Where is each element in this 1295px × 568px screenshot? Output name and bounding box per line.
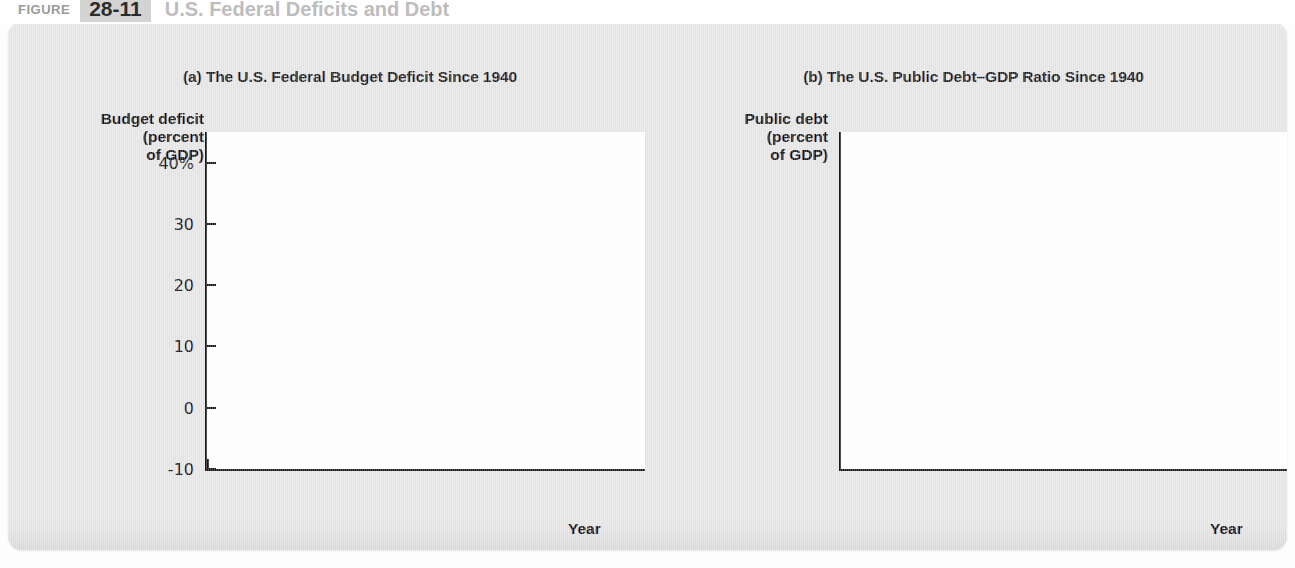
y-tick-label: -10 bbox=[168, 460, 207, 479]
chart-panel-a: (a) The U.S. Federal Budget Deficit Sinc… bbox=[8, 22, 648, 550]
panel-a-subtitle: (a) The U.S. Federal Budget Deficit Sinc… bbox=[8, 68, 670, 86]
y-tick-mark bbox=[207, 223, 216, 225]
chart-panel-b: (b) The U.S. Public Debt–GDP Ratio Since… bbox=[644, 22, 1287, 550]
y-tick-label: 40% bbox=[158, 153, 207, 172]
panel-a-plot-area: 40%3020100-10 bbox=[205, 132, 645, 471]
figure-label: Figure bbox=[0, 2, 80, 17]
figure-panel: (a) The U.S. Federal Budget Deficit Sinc… bbox=[8, 22, 1287, 550]
y-tick-mark bbox=[207, 345, 216, 347]
figure-number: 28-11 bbox=[80, 0, 151, 22]
y-tick-mark bbox=[207, 162, 216, 164]
y-tick-label: 30 bbox=[174, 214, 207, 233]
figure-root: Figure 28-11 U.S. Federal Deficits and D… bbox=[0, 0, 1295, 568]
x-tick-mark bbox=[207, 459, 209, 469]
panel-bottom-shadow bbox=[8, 524, 1287, 550]
panel-b-plot-area bbox=[839, 132, 1287, 471]
y-tick-label: 20 bbox=[174, 276, 207, 295]
figure-title: U.S. Federal Deficits and Debt bbox=[151, 0, 450, 21]
y-tick-mark bbox=[207, 407, 216, 409]
y-tick-label: 10 bbox=[174, 337, 207, 356]
figure-header: Figure 28-11 U.S. Federal Deficits and D… bbox=[0, 0, 1295, 24]
y-tick-label: 0 bbox=[184, 398, 207, 417]
panel-b-subtitle: (b) The U.S. Public Debt–GDP Ratio Since… bbox=[644, 68, 1287, 86]
panel-b-y-axis-label: Public debt (percent of GDP) bbox=[668, 110, 828, 164]
y-tick-mark bbox=[207, 284, 216, 286]
